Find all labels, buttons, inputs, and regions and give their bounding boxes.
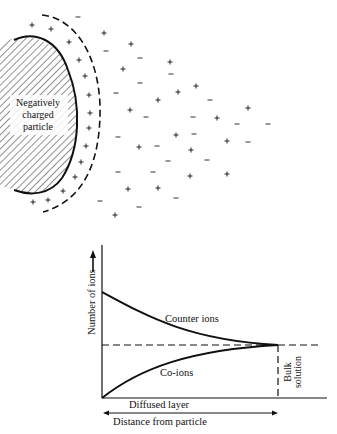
plus-ion-icon bbox=[87, 93, 92, 98]
plus-ion-icon bbox=[79, 160, 84, 165]
plus-ion-icon bbox=[77, 58, 82, 63]
diffused-layer-label: Diffused layer bbox=[129, 399, 190, 410]
ion-distribution-graph: Number of ions Counter ions Co-ions Bulk… bbox=[86, 245, 327, 427]
plus-ion-icon bbox=[137, 145, 142, 150]
plus-ion-icon bbox=[84, 144, 89, 149]
y-axis-label: Number of ions bbox=[86, 269, 97, 335]
plus-ion-icon bbox=[129, 42, 134, 47]
plus-ion-icon bbox=[176, 90, 181, 95]
particle-label-line3: particle bbox=[23, 121, 54, 132]
plus-ion-icon bbox=[156, 186, 161, 191]
negatively-charged-particle: Negatively charged particle bbox=[0, 36, 77, 193]
y-axis-arrow-icon bbox=[90, 250, 96, 258]
plus-ion-icon bbox=[128, 108, 133, 113]
plus-ion-icon bbox=[73, 175, 78, 180]
plus-ion-icon bbox=[31, 200, 36, 205]
plus-ion-icon bbox=[67, 40, 72, 45]
particle-label-line2: charged bbox=[22, 109, 53, 120]
plus-ion-icon bbox=[188, 174, 193, 179]
negative-ions bbox=[76, 17, 271, 207]
plus-ion-icon bbox=[215, 116, 220, 121]
plus-ion-icon bbox=[30, 23, 35, 28]
plus-ion-icon bbox=[225, 172, 230, 177]
plus-ion-icon bbox=[46, 198, 51, 203]
bulk-label-line2: solution bbox=[292, 356, 303, 388]
plus-ion-icon bbox=[113, 213, 118, 218]
particle-label-line1: Negatively bbox=[16, 97, 60, 108]
plus-ion-icon bbox=[189, 148, 194, 153]
plus-ion-icon bbox=[83, 74, 88, 79]
arrow-left-icon bbox=[103, 411, 109, 416]
plus-ion-icon bbox=[168, 60, 173, 65]
plus-ion-icon bbox=[174, 133, 179, 138]
plus-ion-icon bbox=[121, 67, 126, 72]
plus-ion-icon bbox=[156, 98, 161, 103]
electric-double-layer-diagram: Negatively charged particle Number of io… bbox=[0, 0, 337, 434]
plus-ion-icon bbox=[88, 111, 93, 116]
counter-ions-label: Counter ions bbox=[165, 313, 219, 324]
x-axis-label: Distance from particle bbox=[113, 416, 207, 427]
arrow-right-icon bbox=[272, 411, 278, 416]
plus-ion-icon bbox=[246, 106, 251, 111]
plus-ion-icon bbox=[61, 189, 66, 194]
plus-ion-icon bbox=[194, 84, 199, 89]
plus-ion-icon bbox=[87, 126, 92, 131]
plus-ion-icon bbox=[49, 27, 54, 32]
plus-ion-icon bbox=[225, 139, 230, 144]
co-ions-label: Co-ions bbox=[160, 367, 193, 378]
plus-ion-icon bbox=[102, 31, 107, 36]
plus-ion-icon bbox=[126, 187, 131, 192]
